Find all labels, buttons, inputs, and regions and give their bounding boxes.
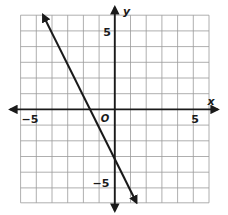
coordinate-plane-svg: x y O −5 5 5 −5 [0,0,228,215]
x-axis-label: x [206,95,215,108]
y-tick-label-positive-five: 5 [103,26,111,39]
y-tick-label-negative-five: −5 [93,177,110,190]
y-axis-label: y [123,5,131,18]
coordinate-graph: x y O −5 5 5 −5 [0,0,228,215]
x-tick-label-positive-five: 5 [191,113,199,126]
x-tick-label-negative-five: −5 [22,113,39,126]
origin-label: O [101,113,110,124]
